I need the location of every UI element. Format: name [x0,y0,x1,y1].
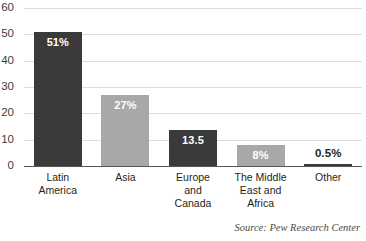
bar[interactable] [34,32,82,166]
plot-area: 6050403020100 51%27%13.58%0.5% [24,8,362,168]
x-axis-category-label: LatinAmerica [24,171,92,197]
x-axis-category-label: EuropeandCanada [159,171,227,210]
y-axis-tick-label: 10 [0,134,14,146]
bar-group[interactable]: 8% [237,8,285,166]
y-axis-tick-label: 40 [0,55,14,67]
bar-chart: 6050403020100 51%27%13.58%0.5% LatinAmer… [0,0,366,241]
category-label-line: Europe [159,171,227,184]
y-axis-tick-label: 60 [0,2,14,14]
y-axis-tick-label: 30 [0,81,14,93]
category-label-line: East and [227,184,295,197]
category-label-line: America [24,184,92,197]
category-label-line: Other [294,171,362,184]
y-axis-tick-label: 50 [0,28,14,40]
bar-group[interactable]: 13.5 [169,8,217,166]
source-note: Source: Pew Research Center [235,222,360,233]
bar-value-label: 0.5% [304,148,352,160]
x-axis-category-label: The MiddleEast andAfrica [227,171,295,210]
bar-value-label: 27% [101,100,149,111]
x-axis-category-labels: LatinAmericaAsiaEuropeandCanadaThe Middl… [24,171,362,217]
y-axis-tick-label: 20 [0,107,14,119]
bar-value-label: 51% [34,37,82,48]
category-label-line: Asia [92,171,160,184]
y-axis-tick-label: 0 [0,160,14,172]
x-axis-category-label: Asia [92,171,160,184]
category-label-line: Canada [159,197,227,210]
x-axis-category-label: Other [294,171,362,184]
bars-layer: 51%27%13.58%0.5% [24,8,362,166]
category-label-line: and [159,184,227,197]
bar-value-label: 8% [237,150,285,161]
axis-baseline [24,166,362,167]
bar-group[interactable]: 51% [34,8,82,166]
bar-group[interactable]: 27% [101,8,149,166]
bar[interactable] [304,164,352,167]
category-label-line: The Middle [227,171,295,184]
bar-value-label: 13.5 [169,135,217,146]
bar-group[interactable]: 0.5% [304,8,352,166]
chart-title-cutoff [0,0,366,5]
category-label-line: Latin [24,171,92,184]
category-label-line: Africa [227,197,295,210]
